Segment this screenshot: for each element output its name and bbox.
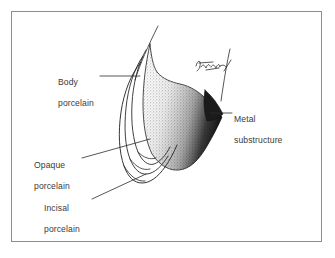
label-incisal-porcelain-line1: Incisal — [44, 203, 69, 213]
label-body-porcelain: Body porcelain — [58, 67, 94, 109]
label-opaque-porcelain: Opaque porcelain — [34, 150, 70, 192]
leader-line-incisal-porcelain — [92, 174, 146, 199]
label-body-porcelain-line2: porcelain — [58, 98, 94, 108]
label-metal-substructure-line1: Metal — [234, 114, 256, 124]
label-opaque-porcelain-line2: porcelain — [34, 181, 70, 191]
label-metal-substructure: Metal substructure — [234, 104, 283, 146]
label-opaque-porcelain-line1: Opaque — [34, 160, 65, 170]
label-incisal-porcelain-line2: porcelain — [44, 224, 80, 234]
metal-distal-tip — [204, 90, 223, 121]
label-incisal-porcelain: Incisal porcelain — [44, 193, 80, 235]
label-body-porcelain-line1: Body — [58, 77, 78, 87]
right-guide-line — [221, 49, 230, 101]
layer-junction-stroke-a — [130, 159, 150, 170]
figure-page: Body porcelain Opaque porcelain Incisal … — [0, 0, 335, 258]
illustration-ink — [82, 26, 232, 199]
label-metal-substructure-line2: substructure — [234, 135, 283, 145]
